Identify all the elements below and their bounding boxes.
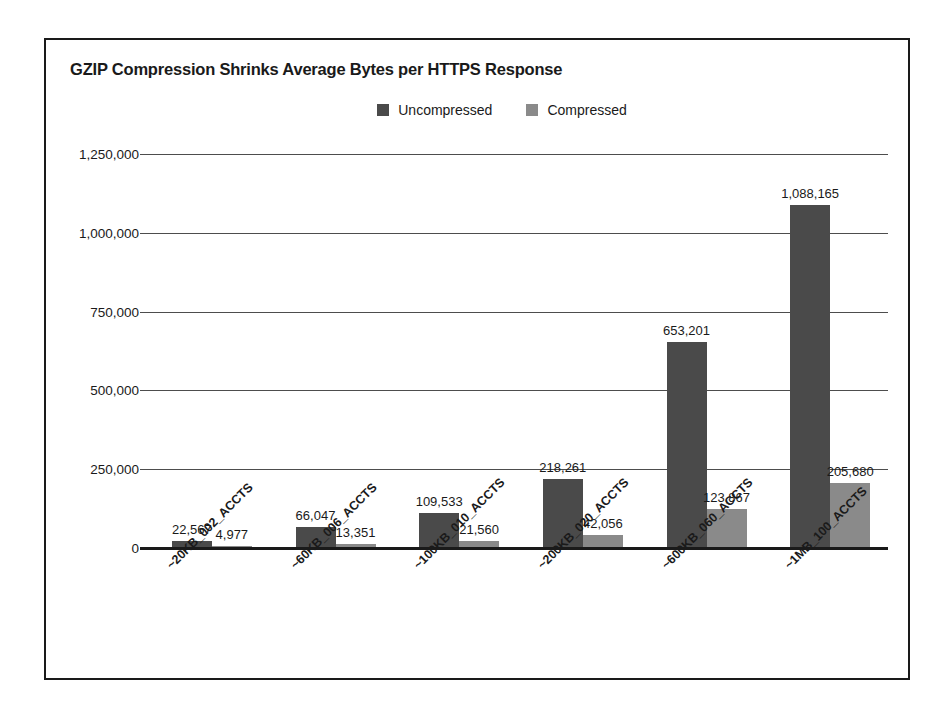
legend-label-compressed: Compressed <box>547 102 626 118</box>
bar-value-label: 109,533 <box>416 494 463 509</box>
legend-entry-compressed: Compressed <box>526 102 626 118</box>
y-tick-mark <box>140 233 146 234</box>
y-tick-label: 1,000,000 <box>79 225 139 240</box>
y-tick-mark <box>140 312 146 313</box>
legend-label-uncompressed: Uncompressed <box>398 102 492 118</box>
gridline <box>146 233 888 234</box>
bar-value-label: 218,261 <box>539 460 586 475</box>
y-tick-label: 500,000 <box>90 383 139 398</box>
x-axis-line <box>140 547 888 550</box>
y-tick-label: 250,000 <box>90 462 139 477</box>
legend-entry-uncompressed: Uncompressed <box>377 102 492 118</box>
y-tick-mark <box>140 154 146 155</box>
y-tick-mark <box>140 469 146 470</box>
bar-value-label: 205,680 <box>827 464 874 479</box>
legend-swatch-uncompressed <box>377 104 389 116</box>
y-tick-label: 1,250,000 <box>79 147 139 162</box>
legend-swatch-compressed <box>526 104 538 116</box>
chart-figure: GZIP Compression Shrinks Average Bytes p… <box>44 38 910 680</box>
bar-value-label: 4,977 <box>216 527 249 542</box>
bar-uncompressed <box>790 205 830 548</box>
bar-value-label: 1,088,165 <box>781 186 839 201</box>
plot-area: 0250,000500,000750,0001,000,0001,250,000… <box>146 154 888 548</box>
bar-compressed <box>583 535 623 548</box>
chart-title: GZIP Compression Shrinks Average Bytes p… <box>70 60 562 79</box>
y-tick-label: 750,000 <box>90 304 139 319</box>
y-tick-label: 0 <box>131 541 139 556</box>
bar-value-label: 653,201 <box>663 323 710 338</box>
gridline <box>146 390 888 391</box>
bar-uncompressed <box>667 342 707 548</box>
gridline <box>146 312 888 313</box>
y-tick-mark <box>140 390 146 391</box>
gridline <box>146 469 888 470</box>
chart-legend: Uncompressed Compressed <box>46 102 908 118</box>
gridline <box>146 154 888 155</box>
